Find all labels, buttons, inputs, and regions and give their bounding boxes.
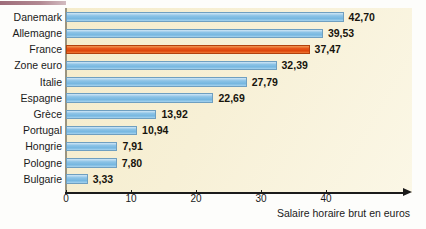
- bar-row: Bulgarie3,33: [0, 171, 426, 187]
- bar-row: Grèce13,92: [0, 106, 426, 122]
- x-axis-label: Salaire horaire brut en euros: [0, 208, 418, 219]
- bar-with-value: 13,92: [66, 106, 188, 122]
- category-label: Espagne: [0, 93, 62, 104]
- bar-row: France37,47: [0, 41, 426, 57]
- bar: [66, 142, 117, 152]
- x-tick-label: 30: [255, 194, 266, 204]
- bar-value-label: 32,39: [282, 60, 308, 71]
- x-tick-label: 0: [63, 194, 69, 204]
- x-tick-label: 20: [190, 194, 201, 204]
- bar-with-value: 37,47: [66, 41, 341, 57]
- bar-with-value: 27,79: [66, 74, 278, 90]
- scan-artifact-strip: [0, 1, 66, 5]
- bar: [66, 126, 137, 136]
- x-axis-ticks: 010203040: [0, 194, 426, 208]
- bar-with-value: 10,94: [66, 122, 168, 138]
- bar: [66, 110, 156, 120]
- category-label: Zone euro: [0, 60, 62, 71]
- bar-value-label: 7,80: [122, 158, 142, 169]
- bar: [66, 61, 277, 71]
- bar-highlighted: [66, 45, 310, 55]
- bar-row: Espagne22,69: [0, 90, 426, 106]
- bar: [66, 93, 213, 103]
- category-label: France: [0, 44, 62, 55]
- bar: [66, 77, 247, 87]
- category-label: Danemark: [0, 12, 62, 23]
- bar-with-value: 32,39: [66, 58, 308, 74]
- bar-row: Danemark42,70: [0, 9, 426, 25]
- bar-row: Portugal10,94: [0, 122, 426, 138]
- bar-row: Pologne7,80: [0, 155, 426, 171]
- category-label: Portugal: [0, 125, 62, 136]
- bar-row: Zone euro32,39: [0, 58, 426, 74]
- bar-with-value: 7,80: [66, 155, 142, 171]
- category-label: Allemagne: [0, 28, 62, 39]
- bar-value-label: 3,33: [93, 174, 113, 185]
- bar-value-label: 7,91: [122, 141, 142, 152]
- bar-with-value: 42,70: [66, 9, 375, 25]
- bar-with-value: 22,69: [66, 90, 245, 106]
- bar-value-label: 39,53: [328, 28, 354, 39]
- bar-row: Italie27,79: [0, 74, 426, 90]
- category-label: Pologne: [0, 158, 62, 169]
- bar: [66, 174, 88, 184]
- bar-value-label: 13,92: [161, 109, 187, 120]
- bar-rows: Danemark42,70Allemagne39,53France37,47Zo…: [0, 8, 426, 193]
- x-tick-label: 40: [320, 194, 331, 204]
- bar-with-value: 39,53: [66, 25, 354, 41]
- bar-row: Hongrie7,91: [0, 139, 426, 155]
- bar-chart: Danemark42,70Allemagne39,53France37,47Zo…: [0, 0, 426, 229]
- bar-value-label: 27,79: [252, 77, 278, 88]
- bar-value-label: 22,69: [218, 93, 244, 104]
- bar: [66, 29, 323, 39]
- category-label: Bulgarie: [0, 174, 62, 185]
- category-label: Grèce: [0, 109, 62, 120]
- x-tick-label: 10: [125, 194, 136, 204]
- bar-value-label: 37,47: [315, 44, 341, 55]
- bar-value-label: 10,94: [142, 125, 168, 136]
- bar-row: Allemagne39,53: [0, 25, 426, 41]
- bar-with-value: 3,33: [66, 171, 113, 187]
- category-label: Italie: [0, 77, 62, 88]
- bar-value-label: 42,70: [349, 12, 375, 23]
- bar: [66, 12, 344, 22]
- category-label: Hongrie: [0, 141, 62, 152]
- bar: [66, 158, 117, 168]
- bar-with-value: 7,91: [66, 139, 143, 155]
